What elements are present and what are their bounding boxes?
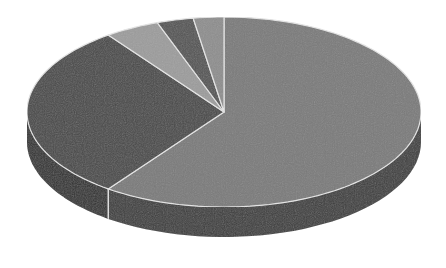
pie-chart-3d <box>0 0 446 268</box>
pie-top-faces <box>27 17 421 207</box>
